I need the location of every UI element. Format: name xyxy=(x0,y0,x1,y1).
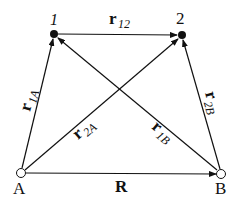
point-1 xyxy=(50,30,58,38)
label-r2B: r 2B xyxy=(198,89,225,117)
vector-R xyxy=(26,173,216,174)
point-B xyxy=(217,170,226,179)
label-1: 1 xyxy=(50,11,58,28)
label-B: B xyxy=(215,179,226,198)
label-r12: r 12 xyxy=(109,9,130,31)
label-A: A xyxy=(13,179,26,198)
svg-text:r: r xyxy=(109,9,117,28)
label-r1A: r 1A xyxy=(15,86,42,114)
label-r2A: r 2A xyxy=(68,114,100,146)
label-r1B: r 1B xyxy=(147,117,179,149)
vector-r12 xyxy=(58,34,177,35)
vector-diagram: 1 2 A B r 12 r 1A r 2A r 1B r 2B R xyxy=(0,0,244,207)
label-2: 2 xyxy=(176,9,185,28)
svg-text:1A: 1A xyxy=(25,88,42,105)
svg-text:2B: 2B xyxy=(201,100,218,117)
svg-text:12: 12 xyxy=(118,17,130,31)
point-A xyxy=(17,169,26,178)
vector-r1B xyxy=(58,38,217,170)
point-2 xyxy=(178,31,186,39)
label-R: R xyxy=(115,177,128,196)
